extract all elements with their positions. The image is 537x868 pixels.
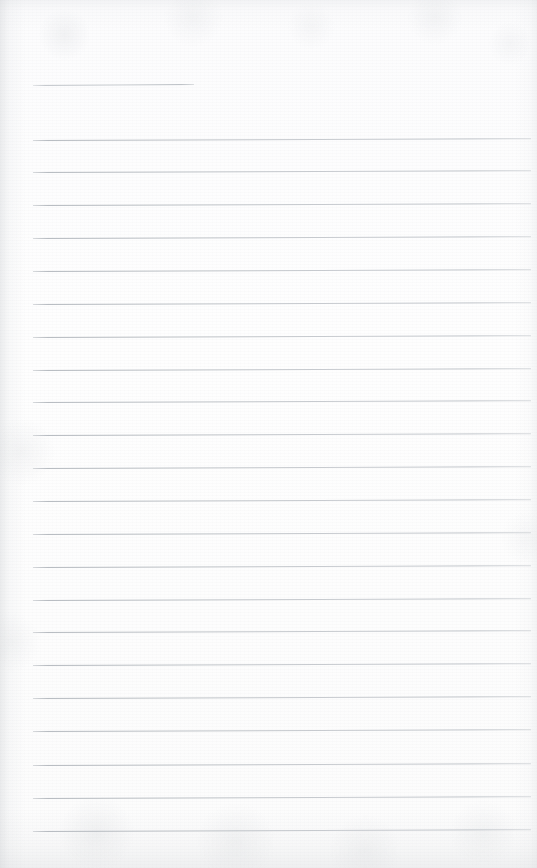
ruled-line <box>33 663 531 666</box>
ruled-line <box>33 236 531 239</box>
ruled-line <box>33 368 531 371</box>
paper-texture-overlay <box>0 0 537 868</box>
ruled-line <box>33 598 531 601</box>
ruled-line <box>33 203 531 206</box>
ruled-line <box>33 170 531 173</box>
header-rule <box>33 84 194 86</box>
paper-grain-overlay <box>0 0 537 868</box>
ruled-line <box>33 796 531 799</box>
ruled-line <box>33 138 531 141</box>
ruled-lines-layer <box>0 0 537 868</box>
ruled-line <box>33 335 531 338</box>
ruled-line <box>33 532 531 535</box>
ruled-line <box>33 763 531 766</box>
ruled-line <box>33 829 531 832</box>
ruled-line <box>33 466 531 469</box>
ruled-line <box>33 302 531 305</box>
ruled-line <box>33 269 531 272</box>
ruled-line <box>33 696 531 699</box>
ruled-line <box>33 565 531 568</box>
ruled-line <box>33 400 531 403</box>
ruled-line <box>33 499 531 502</box>
ruled-line <box>33 729 531 732</box>
notebook-page <box>0 0 537 868</box>
ruled-line <box>33 433 531 436</box>
ruled-line <box>33 630 531 633</box>
